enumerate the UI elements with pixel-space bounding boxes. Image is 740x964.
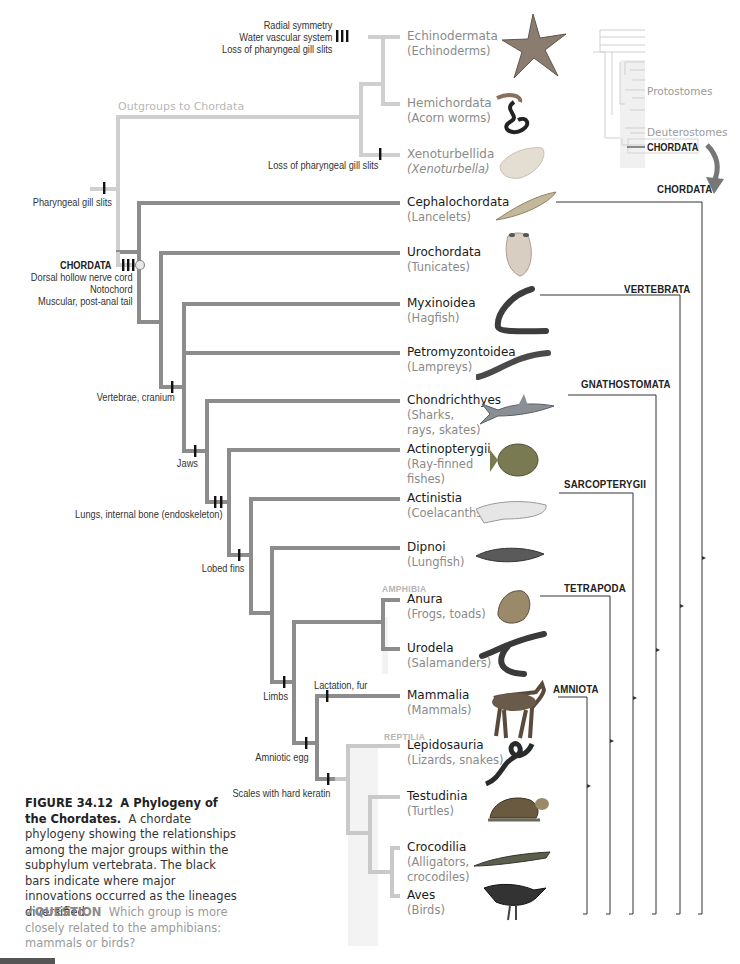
taxon-scientific: Urochordata bbox=[407, 245, 481, 260]
taxon-scientific: Hemichordata bbox=[407, 96, 492, 111]
taxon-common: (Ray-finned fishes) bbox=[407, 457, 477, 487]
turtle-icon bbox=[484, 790, 550, 832]
figure-number: FIGURE 34.12 bbox=[25, 796, 113, 810]
reptilia-shade bbox=[348, 746, 378, 946]
checkmark-icon: ✔ bbox=[25, 905, 35, 919]
taxon-scientific: Testudinia bbox=[407, 789, 467, 804]
taxon-common: (Hagfish) bbox=[407, 311, 476, 326]
figure-caption-text: A chordate phylogeny showing the relatio… bbox=[25, 812, 237, 919]
char-post-anal-tail: Muscular, post-anal tail bbox=[31, 295, 133, 307]
taxon-xenoturbellida: Xenoturbellida (Xenoturbella) bbox=[407, 147, 494, 177]
taxon-common: (Tunicates) bbox=[407, 260, 481, 275]
taxon-scientific: Actinopterygii bbox=[407, 442, 477, 457]
taxon-common: (Xenoturbella) bbox=[407, 162, 494, 177]
lungfish-icon bbox=[474, 542, 546, 568]
taxon-scientific: Crocodilia bbox=[407, 840, 482, 855]
taxon-aves: Aves (Birds) bbox=[407, 888, 445, 918]
taxon-common: (Turtles) bbox=[407, 804, 467, 819]
taxon-chondrichthyes: Chondrichthyes (Sharks, rays, skates) bbox=[407, 393, 482, 438]
char-chordata-list: Dorsal hollow nerve cord Notochord Muscu… bbox=[31, 271, 133, 307]
taxon-common: (Sharks, rays, skates) bbox=[407, 408, 482, 438]
taxon-scientific: Myxinoidea bbox=[407, 296, 476, 311]
taxon-common: (Lungfish) bbox=[407, 555, 465, 570]
lamprey-icon bbox=[476, 345, 552, 381]
inset-protostomes-label: Protostomes bbox=[647, 85, 712, 97]
taxon-common: (Mammals) bbox=[407, 703, 472, 718]
chordata-char-title: CHORDATA bbox=[60, 259, 112, 271]
taxon-scientific: Dipnoi bbox=[407, 540, 465, 555]
clade-gnathostomata-label: GNATHOSTOMATA bbox=[581, 378, 671, 390]
taxon-hemichordata: Hemichordata (Acorn worms) bbox=[407, 96, 492, 126]
char-vertebrae-cranium: Vertebrae, cranium bbox=[97, 391, 175, 403]
char-jaws: Jaws bbox=[177, 457, 198, 469]
xenoturbella-icon bbox=[496, 144, 548, 182]
char-lungs-bone: Lungs, internal bone (endoskeleton) bbox=[76, 508, 223, 520]
chordate-branches bbox=[118, 203, 398, 779]
taxon-urochordata: Urochordata (Tunicates) bbox=[407, 245, 481, 275]
clade-tetrapoda-label: TETRAPODA bbox=[564, 582, 626, 594]
taxon-anura: Anura (Frogs, toads) bbox=[407, 592, 486, 622]
char-lobed-fins: Lobed fins bbox=[201, 562, 244, 574]
taxon-testudinia: Testudinia (Turtles) bbox=[407, 789, 467, 819]
taxon-scientific: Xenoturbellida bbox=[407, 147, 494, 162]
starfish-icon bbox=[500, 12, 570, 82]
hagfish-icon bbox=[490, 285, 550, 335]
bird-icon bbox=[480, 876, 550, 926]
bottom-edge-bar bbox=[0, 958, 55, 964]
taxon-scientific: Mammalia bbox=[407, 688, 472, 703]
taxon-scientific: Chondrichthyes bbox=[407, 393, 482, 408]
taxon-actinopterygii: Actinopterygii (Ray-finned fishes) bbox=[407, 442, 477, 487]
tunicate-icon bbox=[500, 230, 536, 278]
taxon-common: (Acorn worms) bbox=[407, 111, 492, 126]
clade-chordata-label: CHORDATA bbox=[657, 183, 712, 195]
figure-caption: FIGURE 34.12 A Phylogeny of the Chordate… bbox=[25, 796, 240, 920]
acorn-worm-icon bbox=[492, 90, 542, 140]
coelacanth-icon bbox=[474, 495, 550, 527]
taxon-echinodermata: Echinodermata (Echinoderms) bbox=[407, 29, 498, 59]
clade-sarcopterygii-label: SARCOPTERYGII bbox=[564, 478, 646, 490]
taxon-common: (Birds) bbox=[407, 903, 445, 918]
clade-vertebrata-label: VERTEBRATA bbox=[624, 283, 690, 295]
taxon-dipnoi: Dipnoi (Lungfish) bbox=[407, 540, 465, 570]
inset-chordata-label: CHORDATA bbox=[647, 141, 699, 153]
synapomorphy-bars bbox=[103, 30, 381, 785]
figure-question: ✔QUESTION Which group is more closely re… bbox=[25, 905, 235, 952]
salamander-icon bbox=[478, 628, 548, 678]
sunfish-icon bbox=[488, 440, 544, 484]
inset-deuterostomes-label: Deuterostomes bbox=[647, 126, 727, 138]
taxon-common: (Frogs, toads) bbox=[407, 607, 486, 622]
taxon-scientific: Aves bbox=[407, 888, 445, 903]
taxon-scientific: Anura bbox=[407, 592, 486, 607]
char-echinoderm: Radial symmetry Water vascular system Lo… bbox=[222, 19, 332, 55]
outgroup-label: Outgroups to Chordata bbox=[118, 100, 244, 113]
shark-icon bbox=[478, 390, 556, 430]
clade-brackets bbox=[540, 202, 702, 914]
chordata-node bbox=[136, 261, 145, 270]
snake-icon bbox=[482, 736, 538, 788]
char-limbs: Limbs bbox=[263, 690, 288, 702]
question-label: QUESTION bbox=[35, 905, 102, 919]
char-pharyngeal-gill-slits: Pharyngeal gill slits bbox=[33, 196, 112, 208]
frog-icon bbox=[492, 585, 536, 629]
crocodile-icon bbox=[472, 846, 552, 872]
char-amniotic-egg: Amniotic egg bbox=[256, 751, 309, 763]
taxon-common: (Alligators, crocodiles) bbox=[407, 855, 482, 885]
taxon-crocodilia: Crocodilia (Alligators, crocodiles) bbox=[407, 840, 482, 885]
clade-amniota-label: AMNIOTA bbox=[553, 683, 599, 695]
taxon-scientific: Echinodermata bbox=[407, 29, 498, 44]
char-scales-keratin: Scales with hard keratin bbox=[232, 787, 330, 799]
taxon-common: (Echinoderms) bbox=[407, 44, 498, 59]
lancelet-icon bbox=[494, 190, 558, 224]
char-dorsal-nerve-cord: Dorsal hollow nerve cord bbox=[31, 271, 133, 283]
char-xeno-loss-gill-slits: Loss of pharyngeal gill slits bbox=[268, 159, 378, 171]
deer-icon bbox=[486, 680, 546, 742]
char-radial-symmetry: Radial symmetry bbox=[222, 19, 332, 31]
taxon-myxinoidea: Myxinoidea (Hagfish) bbox=[407, 296, 476, 326]
curved-arrow-icon bbox=[707, 145, 717, 182]
char-loss-gill-slits: Loss of pharyngeal gill slits bbox=[222, 43, 332, 55]
char-lactation-fur: Lactation, fur bbox=[314, 679, 367, 691]
char-water-vascular: Water vascular system bbox=[222, 31, 332, 43]
taxon-mammalia: Mammalia (Mammals) bbox=[407, 688, 472, 718]
char-notochord: Notochord bbox=[31, 283, 133, 295]
